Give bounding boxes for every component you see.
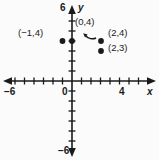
callout-arrow-icon xyxy=(83,33,96,39)
data-point-neg1-4 xyxy=(60,38,66,44)
data-point-2-3 xyxy=(98,48,104,54)
x-axis-arrow-left xyxy=(3,77,12,85)
y-axis-tick-label-6: 6 xyxy=(60,3,66,13)
point-label-0-4: (0,4) xyxy=(75,17,95,27)
x-axis-tick-label-0: 0 xyxy=(62,87,68,97)
coordinate-plane-figure: 6 −6 −6 0 4 x y (−1,4) (0,4) (2,4) (2,3) xyxy=(0,0,159,160)
x-axis-label: x xyxy=(147,87,153,97)
point-label-neg1-4: (−1,4) xyxy=(18,28,43,38)
point-label-2-4: (2,4) xyxy=(108,28,128,38)
y-axis-arrow-up xyxy=(68,5,76,14)
x-axis-arrow-right xyxy=(147,77,156,85)
y-axis-tick-label-neg6: −6 xyxy=(58,146,69,156)
x-axis-tick-label-4: 4 xyxy=(119,87,125,97)
data-point-0-4 xyxy=(69,38,75,44)
x-axis-tick-label-neg6: −6 xyxy=(4,87,15,97)
point-label-2-3: (2,3) xyxy=(108,43,128,53)
data-point-2-4 xyxy=(98,38,104,44)
y-axis-label: y xyxy=(78,3,84,13)
